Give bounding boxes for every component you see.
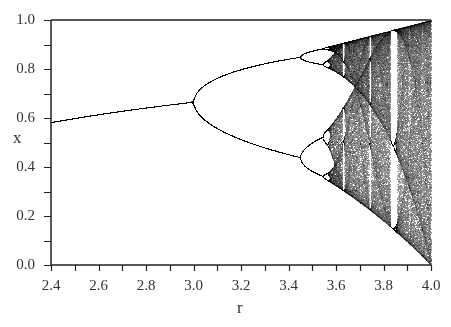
- y-tick-label: 0.2: [0, 208, 35, 223]
- x-tick-label: 2.6: [79, 278, 119, 293]
- y-tick-label: 0.6: [0, 110, 35, 125]
- y-tick-label: 0.0: [0, 257, 35, 272]
- x-tick-label: 3.6: [316, 278, 356, 293]
- x-tick-label: 3.0: [174, 278, 214, 293]
- x-tick-label: 3.2: [221, 278, 261, 293]
- y-tick-label: 1.0: [0, 12, 35, 27]
- x-tick-label: 3.4: [269, 278, 309, 293]
- x-tick-label: 2.4: [31, 278, 71, 293]
- y-tick-label: 0.8: [0, 61, 35, 76]
- x-tick-label: 2.8: [126, 278, 166, 293]
- x-axis-title: r: [237, 298, 243, 318]
- x-tick-label: 3.8: [364, 278, 404, 293]
- x-tick-label: 4.0: [411, 278, 451, 293]
- y-axis-title: x: [13, 128, 22, 148]
- y-tick-label: 0.4: [0, 159, 35, 174]
